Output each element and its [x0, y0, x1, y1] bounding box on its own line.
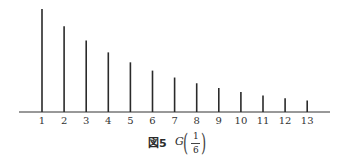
- x-tick-label: 10: [235, 115, 248, 126]
- x-tick-label: 8: [194, 115, 200, 126]
- fraction-numerator: 1: [193, 131, 199, 141]
- x-tick-label: 9: [216, 115, 222, 126]
- figure-caption: 図5 G ( 1 6 ): [0, 130, 350, 160]
- right-paren: ): [201, 129, 206, 157]
- x-tick-label: 12: [279, 115, 292, 126]
- x-tick-label: 3: [83, 115, 89, 126]
- x-tick-label: 11: [257, 115, 270, 126]
- x-tick-label: 4: [105, 115, 111, 126]
- fraction-denominator: 6: [193, 145, 199, 155]
- x-tick-label: 5: [127, 115, 133, 126]
- x-tick-labels: 12345678910111213: [39, 115, 314, 126]
- x-tick-label: 13: [301, 115, 314, 126]
- figure-label: 図5: [148, 134, 167, 150]
- fraction-bar: [191, 143, 200, 144]
- x-tick-label: 2: [61, 115, 67, 126]
- x-tick-label: 7: [171, 115, 177, 126]
- x-tick-label: 6: [149, 115, 155, 126]
- x-tick-label: 1: [39, 115, 45, 126]
- bars: [42, 9, 307, 112]
- left-paren: (: [183, 129, 188, 157]
